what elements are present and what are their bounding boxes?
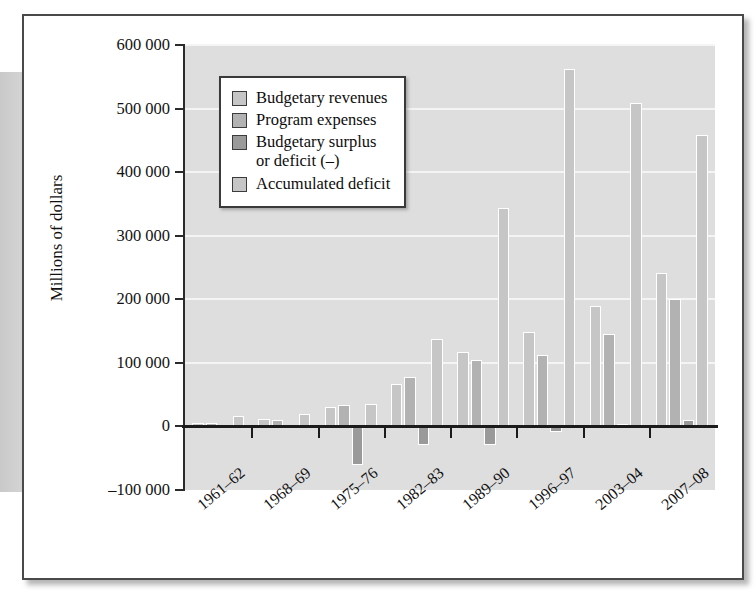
legend-item-label: Budgetary revenues	[256, 88, 388, 107]
x-axis-tick-label: 1961–62	[194, 464, 248, 514]
x-axis-tick-label: 2003–04	[592, 464, 646, 514]
x-axis-tick-label: 1982–83	[393, 464, 447, 514]
figure-root: 600 000500 000400 000300 000200 000100 0…	[0, 0, 756, 603]
legend-item: Budgetary surplus or deficit (–)	[232, 132, 390, 170]
chart-legend: Budgetary revenuesProgram expensesBudget…	[219, 76, 406, 208]
x-axis-tick-label: 2007–08	[658, 464, 712, 514]
x-axis-tick-label: 1975–76	[327, 464, 381, 514]
legend-item: Budgetary revenues	[232, 88, 390, 107]
chart-area: 600 000500 000400 000300 000200 000100 0…	[24, 16, 742, 578]
chart-figure-frame: 600 000500 000400 000300 000200 000100 0…	[22, 14, 744, 580]
legend-swatch-accumulated-deficit	[232, 177, 247, 192]
legend-item-label: Program expenses	[256, 110, 377, 129]
legend-item: Accumulated deficit	[232, 174, 390, 193]
legend-item-label: Accumulated deficit	[256, 174, 390, 193]
legend-swatch-budgetary-revenues	[232, 91, 247, 106]
legend-swatch-program-expenses	[232, 113, 247, 128]
legend-item: Program expenses	[232, 110, 390, 129]
legend-swatch-budgetary-surplus-or-deficit	[232, 135, 247, 150]
x-axis-tick-label: 1968–69	[260, 464, 314, 514]
legend-item-label: Budgetary surplus or deficit (–)	[256, 132, 377, 170]
x-axis-tick-label: 1996–97	[525, 464, 579, 514]
x-axis-tick-label: 1989–90	[459, 464, 513, 514]
